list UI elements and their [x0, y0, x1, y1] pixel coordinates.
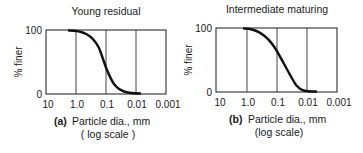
panel-a-x-tick: 0.01 [127, 99, 147, 110]
panel-a-x-axis-scale-note: ( log scale ) [81, 128, 135, 140]
panel-a-grading-curve [69, 31, 140, 94]
panel-b: Intermediate maturing 100 0 % finer 10 1… [183, 3, 352, 138]
panel-a: Young residual 100 0 % finer 10 1.0 0.1 … [13, 5, 181, 140]
panel-a-x-axis-label: Particle dia., mm [72, 115, 150, 127]
panel-b-caption-prefix: (b) [229, 113, 242, 125]
panel-b-x-axis-scale-note: (log scale) [255, 126, 303, 138]
panel-a-y-axis-label: % finer [13, 46, 24, 78]
panel-a-x-tick: 0.1 [100, 99, 114, 110]
panel-a-x-tick: 10 [42, 99, 54, 110]
panel-b-title: Intermediate maturing [226, 3, 328, 15]
panel-a-title: Young residual [71, 5, 140, 17]
panel-a-x-tick: 0.001 [155, 99, 180, 110]
panel-b-x-axis-label: Particle dia., mm [248, 113, 326, 125]
panel-b-grading-curve [244, 29, 316, 92]
grading-curves-figure: Young residual 100 0 % finer 10 1.0 0.1 … [0, 0, 363, 153]
panel-b-x-tick: 0.001 [326, 97, 351, 108]
panel-b-x-tick: 0.1 [271, 97, 285, 108]
panel-b-x-tick: 0.01 [298, 97, 318, 108]
panel-b-x-tick: 1.0 [241, 97, 255, 108]
panel-b-y-axis-label: % finer [183, 44, 194, 76]
panel-b-x-tick: 10 [214, 97, 226, 108]
panel-b-y-tick-100: 100 [195, 23, 212, 34]
panel-a-y-tick-100: 100 [25, 25, 42, 36]
panel-a-x-tick: 1.0 [70, 99, 84, 110]
panel-a-caption-prefix: (a) [54, 115, 67, 127]
panel-b-plot-frame [216, 28, 337, 92]
panel-b-y-tick-0: 0 [206, 87, 212, 98]
